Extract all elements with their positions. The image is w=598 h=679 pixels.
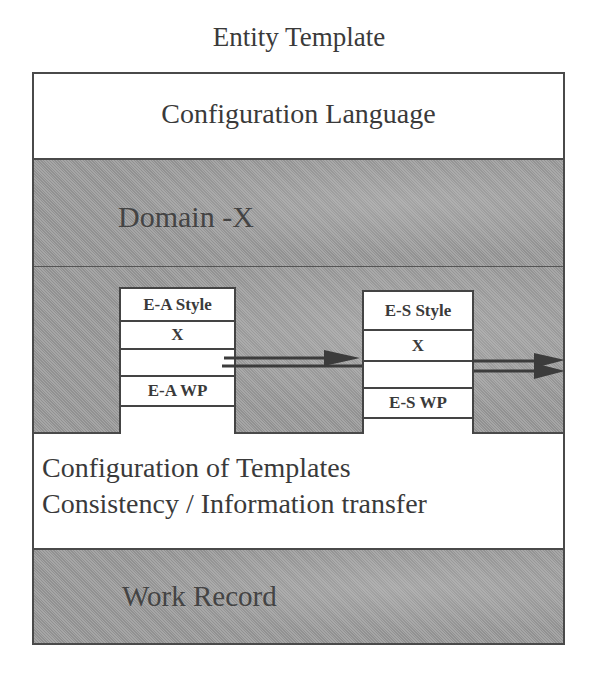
work-record-label: Work Record bbox=[122, 580, 277, 613]
arrow-es-out-upper bbox=[472, 353, 565, 368]
work-record-band: Work Record bbox=[34, 550, 563, 643]
domain-label: Domain -X bbox=[118, 200, 254, 234]
configuration-language-label: Configuration Language bbox=[34, 98, 563, 130]
configuration-language-band: Configuration Language bbox=[34, 74, 563, 160]
entity-template-frame: Configuration Language Domain -X E-A Sty… bbox=[32, 72, 565, 645]
configuration-of-templates-label: Configuration of Templates bbox=[42, 452, 351, 484]
domain-band: Domain -X bbox=[34, 160, 563, 267]
diagram-title: Entity Template bbox=[0, 22, 598, 53]
consistency-information-transfer-label: Consistency / Information transfer bbox=[42, 488, 427, 520]
arrow-ea-to-es-upper bbox=[224, 350, 360, 366]
transfer-arrows bbox=[34, 267, 567, 434]
configuration-of-templates-band: Configuration of Templates Consistency /… bbox=[34, 434, 563, 550]
arrow-es-out-lower bbox=[474, 363, 565, 379]
entities-band: E-A Style X E-A WP E-S Style X E-S WP bbox=[34, 267, 563, 434]
